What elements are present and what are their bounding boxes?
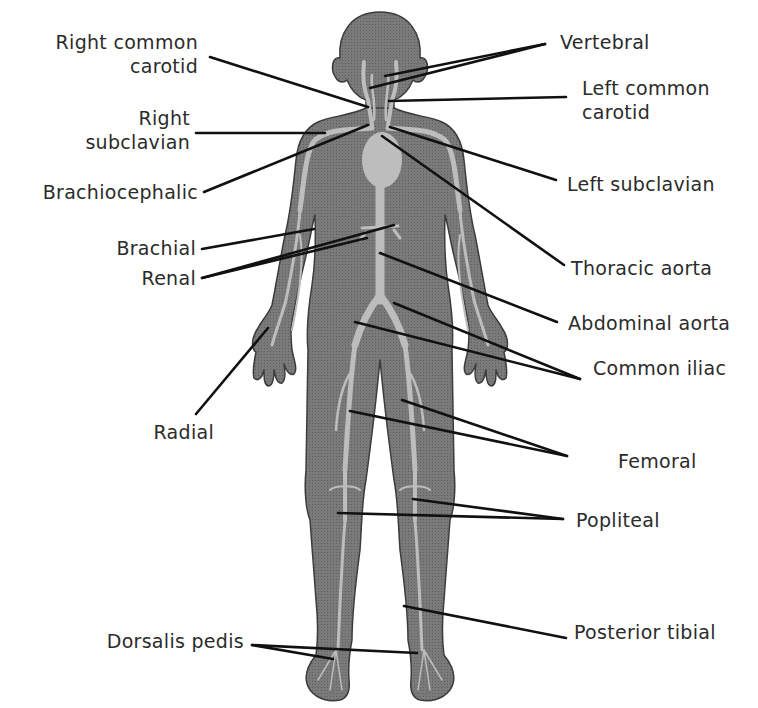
- label-brachial: Brachial: [116, 236, 196, 260]
- label-line: Left common: [582, 76, 710, 100]
- label-line: Right: [85, 106, 190, 130]
- label-left-subclavian: Left subclavian: [567, 172, 715, 196]
- label-right-common-carotid: Right common carotid: [56, 30, 198, 78]
- label-renal: Renal: [141, 266, 196, 290]
- label-line: Brachial: [116, 236, 196, 260]
- body-silhouette: [253, 12, 508, 701]
- label-line: Vertebral: [560, 30, 650, 54]
- head: [333, 12, 428, 112]
- label-posterior-tibial: Posterior tibial: [574, 620, 716, 644]
- label-line: Left subclavian: [567, 172, 715, 196]
- label-common-iliac: Common iliac: [593, 356, 726, 380]
- leader-femoral-2: [350, 411, 567, 456]
- label-line: Thoracic aorta: [571, 256, 712, 280]
- label-line: Brachiocephalic: [43, 180, 198, 204]
- label-radial: Radial: [154, 420, 215, 444]
- label-line: Abdominal aorta: [568, 311, 730, 335]
- label-line: carotid: [56, 54, 198, 78]
- label-left-common-carotid: Left common carotid: [582, 76, 710, 124]
- label-line: Renal: [141, 266, 196, 290]
- label-brachiocephalic: Brachiocephalic: [43, 180, 198, 204]
- label-line: Right common: [56, 30, 198, 54]
- label-line: Popliteal: [576, 508, 660, 532]
- label-popliteal: Popliteal: [576, 508, 660, 532]
- label-line: Dorsalis pedis: [107, 629, 244, 653]
- label-vertebral: Vertebral: [560, 30, 650, 54]
- label-line: Femoral: [618, 449, 697, 473]
- heart: [362, 132, 402, 188]
- label-femoral: Femoral: [618, 449, 697, 473]
- leader-left-common-carotid: [389, 97, 566, 101]
- label-thoracic-aorta: Thoracic aorta: [571, 256, 712, 280]
- label-line: subclavian: [85, 130, 190, 154]
- label-line: Radial: [154, 420, 215, 444]
- label-line: Posterior tibial: [574, 620, 716, 644]
- label-right-subclavian: Right subclavian: [85, 106, 190, 154]
- label-dorsalis-pedis: Dorsalis pedis: [107, 629, 244, 653]
- label-line: carotid: [582, 100, 710, 124]
- label-line: Common iliac: [593, 356, 726, 380]
- label-abdominal-aorta: Abdominal aorta: [568, 311, 730, 335]
